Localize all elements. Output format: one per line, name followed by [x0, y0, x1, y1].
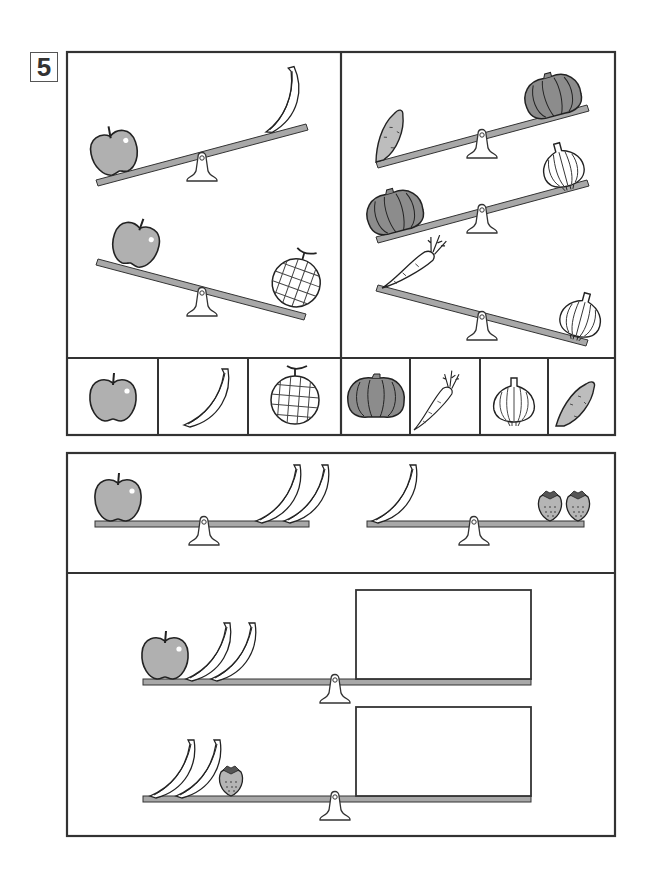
strip-cell-onion[interactable]	[480, 358, 548, 435]
answer-box-1[interactable]	[356, 590, 531, 679]
strip-cell-pumpkin[interactable]	[341, 358, 410, 435]
strip-cell-carrot[interactable]	[410, 358, 480, 435]
strip-cell-banana[interactable]	[158, 358, 248, 435]
top-panel	[67, 52, 615, 435]
answer-strip	[67, 358, 615, 435]
strip-cell-apple[interactable]	[67, 358, 158, 435]
strip-cell-sweet-potato[interactable]	[548, 358, 615, 435]
bottom-panel	[67, 453, 615, 836]
strip-cell-melon[interactable]	[248, 358, 341, 435]
worksheet-canvas	[0, 0, 647, 882]
answer-box-2[interactable]	[356, 707, 531, 796]
